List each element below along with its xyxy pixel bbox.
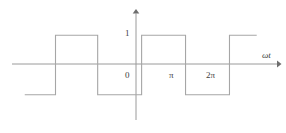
x-tick-label-two-pi: 2π (206, 70, 215, 80)
square-wave-figure: 1 0 π 2π ωt (0, 0, 286, 133)
x-axis-name-omega-t: ωt (262, 50, 271, 60)
x-tick-label-pi: π (169, 70, 174, 80)
x-axis-arrowhead-icon (277, 61, 282, 68)
y-axis-arrowhead-icon (133, 9, 140, 14)
origin-label-zero: 0 (125, 70, 130, 80)
plot-canvas (0, 0, 286, 133)
y-tick-label-one: 1 (125, 28, 130, 38)
square-wave-trace (25, 35, 257, 94)
